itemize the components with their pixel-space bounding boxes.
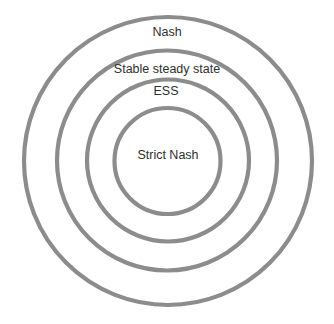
nested-circles-diagram: Nash Stable steady state ESS Strict Nash [0, 0, 334, 324]
label-stable-steady-state: Stable steady state [114, 62, 220, 76]
label-strict-nash: Strict Nash [137, 148, 198, 162]
label-ess: ESS [153, 84, 178, 98]
label-nash: Nash [152, 25, 181, 39]
